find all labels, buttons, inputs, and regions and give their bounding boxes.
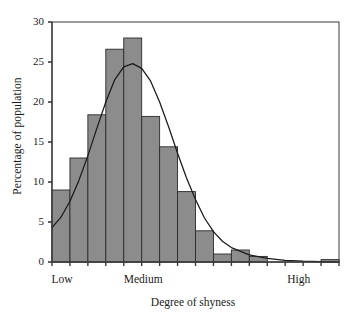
y-tick-label: 5 [22, 216, 44, 227]
histogram-bar [70, 158, 88, 262]
x-axis-title: Degree of shyness [48, 296, 338, 308]
y-tick-label: 30 [22, 16, 44, 27]
y-tick-label: 0 [22, 256, 44, 267]
chart-figure: 051015202530 LowMediumHigh Percentage of… [0, 0, 347, 320]
histogram-bar [178, 192, 196, 262]
x-axis-tick-labels: LowMediumHigh [0, 274, 347, 294]
y-axis-title: Percentage of population [11, 31, 23, 241]
histogram-bar [52, 190, 70, 262]
histogram-plot [0, 0, 347, 320]
x-tick-label: Medium [124, 274, 162, 286]
histogram-bar [124, 38, 142, 262]
y-tick-label: 25 [22, 56, 44, 67]
histogram-bar [196, 231, 214, 262]
y-tick-label: 10 [22, 176, 44, 187]
y-tick-label: 20 [22, 96, 44, 107]
y-tick-label: 15 [22, 136, 44, 147]
histogram-bar [160, 147, 178, 262]
histogram-bar [142, 116, 160, 262]
x-tick-label: Low [43, 274, 81, 286]
x-tick-label: High [280, 274, 318, 286]
histogram-bar [88, 115, 106, 262]
histogram-bar [213, 254, 231, 262]
